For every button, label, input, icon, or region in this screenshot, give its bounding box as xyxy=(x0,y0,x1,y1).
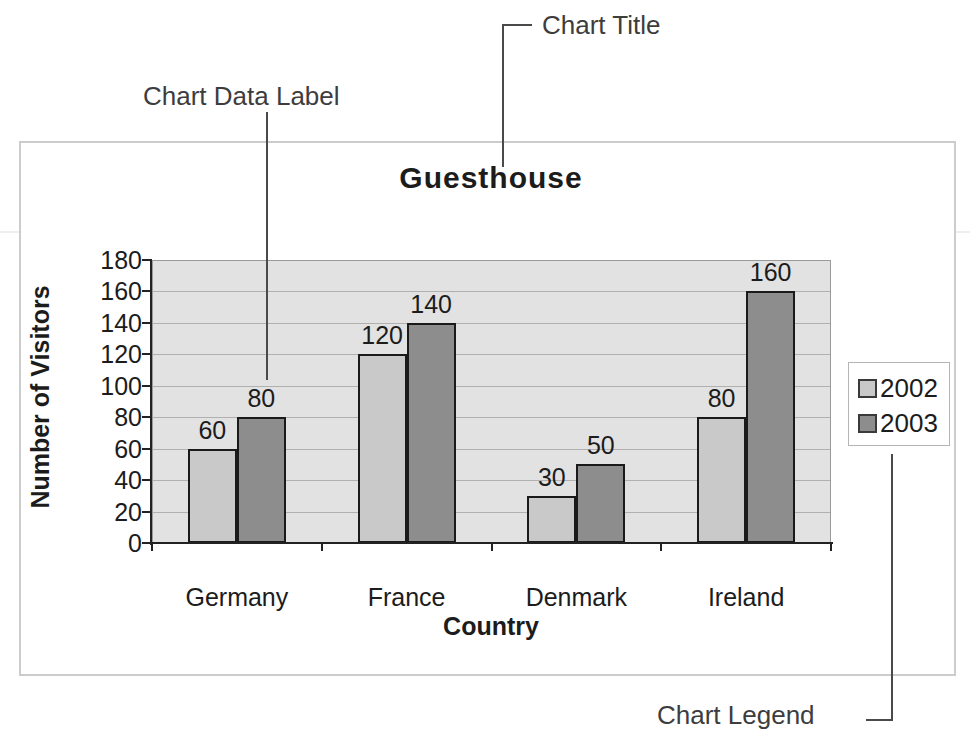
bar-2002-ireland xyxy=(697,417,746,543)
bar-2003-ireland xyxy=(746,291,795,543)
gridline-160 xyxy=(153,291,830,292)
data-label-2003-france: 140 xyxy=(386,290,476,318)
x-axis-line xyxy=(150,542,833,544)
callout-chart-data-label-line xyxy=(266,112,268,380)
legend-entry-2002: 2002 xyxy=(858,371,949,406)
y-tick-label-160: 160 xyxy=(70,276,142,306)
y-tick-label-0: 0 xyxy=(70,528,142,558)
bar-2003-germany xyxy=(237,417,286,543)
y-tick-label-40: 40 xyxy=(70,465,142,495)
bar-2002-france xyxy=(358,354,407,543)
x-tick-0 xyxy=(151,544,153,551)
legend-swatch-2003 xyxy=(858,414,877,433)
y-tick-label-140: 140 xyxy=(70,308,142,338)
x-category-label-france: France xyxy=(322,583,492,612)
bar-2002-germany xyxy=(188,449,237,543)
gridline-140 xyxy=(153,323,830,324)
data-label-2003-germany: 80 xyxy=(216,384,306,412)
bar-2002-denmark xyxy=(527,496,576,543)
data-label-2003-ireland: 160 xyxy=(726,258,816,286)
callout-chart-legend: Chart Legend xyxy=(657,700,815,731)
x-tick-1 xyxy=(321,544,323,551)
bar-2003-denmark xyxy=(576,464,625,543)
x-tick-2 xyxy=(491,544,493,551)
y-tick-label-120: 120 xyxy=(70,339,142,369)
x-category-label-denmark: Denmark xyxy=(491,583,661,612)
x-tick-3 xyxy=(660,544,662,551)
y-axis-line xyxy=(150,259,152,545)
legend-label-2002: 2002 xyxy=(880,373,938,404)
y-tick-label-20: 20 xyxy=(70,497,142,527)
bar-2003-france xyxy=(407,323,456,543)
legend-entry-2003: 2003 xyxy=(858,406,949,441)
y-tick-label-100: 100 xyxy=(70,371,142,401)
y-tick-label-60: 60 xyxy=(70,434,142,464)
chart-legend-box: 2002 2003 xyxy=(848,362,950,446)
x-axis-title: Country xyxy=(391,612,591,641)
y-axis-title: Number of Visitors xyxy=(26,251,58,543)
gridline-120 xyxy=(153,354,830,355)
x-category-label-germany: Germany xyxy=(152,583,322,612)
legend-label-2003: 2003 xyxy=(880,408,938,439)
callout-chart-legend-line-horizontal xyxy=(866,719,893,721)
y-tick-label-180: 180 xyxy=(70,245,142,275)
y-tick-label-80: 80 xyxy=(70,402,142,432)
callout-chart-title-line-horizontal xyxy=(502,24,532,26)
callout-chart-title-line-vertical xyxy=(502,24,504,167)
callout-chart-legend-line-vertical xyxy=(891,454,893,721)
x-category-label-ireland: Ireland xyxy=(661,583,831,612)
legend-swatch-2002 xyxy=(858,379,877,398)
data-label-2003-denmark: 50 xyxy=(556,431,646,459)
callout-chart-data-label: Chart Data Label xyxy=(143,81,340,112)
x-tick-4 xyxy=(830,544,832,551)
callout-chart-title: Chart Title xyxy=(542,10,661,41)
